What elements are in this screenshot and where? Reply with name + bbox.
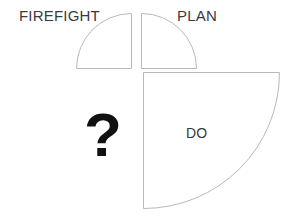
diagram-canvas: FIREFIGHT PLAN DO ? bbox=[0, 0, 295, 222]
quadrant-label-firefight: FIREFIGHT bbox=[19, 7, 100, 24]
quadrant-diagram bbox=[0, 0, 295, 222]
quadrant-label-do: DO bbox=[186, 125, 207, 141]
quadrant-label-unknown: ? bbox=[84, 104, 122, 166]
wedge-do[interactable] bbox=[144, 73, 280, 209]
quadrant-label-plan: PLAN bbox=[177, 7, 217, 24]
